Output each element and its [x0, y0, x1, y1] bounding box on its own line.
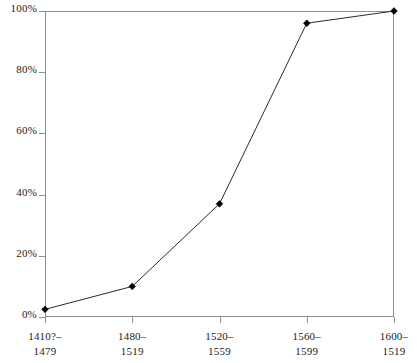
series-line — [45, 11, 394, 309]
line-chart: 0%20%40%60%80%100% 1410?–14791480–151915… — [0, 0, 417, 363]
data-series — [0, 0, 417, 363]
series-markers — [42, 8, 398, 313]
data-point — [391, 8, 398, 15]
data-point — [42, 306, 49, 313]
data-point — [303, 20, 310, 27]
